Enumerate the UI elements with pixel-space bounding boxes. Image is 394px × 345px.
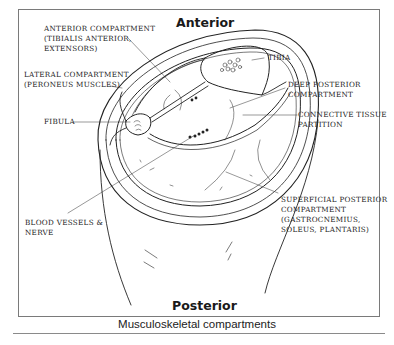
tibia-marrow: [220, 58, 241, 72]
blood-vessels: [189, 97, 209, 139]
anterior-label: Anterior: [176, 15, 234, 30]
lateral-septum: [110, 128, 126, 145]
label-fibula: Fibula: [44, 117, 75, 127]
label-anterior-compartment: Anterior Compartment (Tibialis Anterior,…: [44, 24, 155, 54]
label-tibia: Tibia: [268, 53, 290, 63]
label-deep-posterior-compartment: Deep Posterior Compartment: [288, 80, 361, 100]
label-connective-tissue-partition: Connective Tissue Partition: [298, 110, 387, 130]
caption-divider: [13, 333, 385, 334]
skin-inner-ring: [106, 38, 310, 217]
skin-hatching: [144, 242, 232, 268]
label-superficial-posterior-compartment: Superficial Posterior Compartment (Gastr…: [281, 195, 387, 235]
label-blood-vessels-nerve: Blood Vessels & Nerve: [25, 218, 103, 238]
interosseous-membrane: [150, 82, 205, 118]
fascia-ring: [116, 48, 300, 206]
label-lateral-compartment: Lateral Compartment (Peroneus Muscles): [24, 70, 129, 90]
figure-caption: Musculoskeletal compartments: [0, 318, 394, 330]
deep-posterior-boundary: [150, 88, 288, 145]
posterior-label: Posterior: [172, 298, 237, 313]
